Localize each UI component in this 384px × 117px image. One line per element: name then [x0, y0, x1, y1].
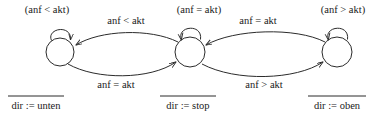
state-machine-diagram: (anf < akt) (anf = akt) (anf > akt) anf …: [0, 0, 384, 117]
transition-arc-center-to-left[interactable]: [76, 33, 178, 45]
transition-arc-right-to-center[interactable]: [206, 32, 325, 45]
transition-label-center-to-right: anf > akt: [245, 80, 282, 91]
state-guard-label-right: (anf > akt): [321, 5, 365, 16]
self-loop-left[interactable]: [51, 29, 71, 40]
state-output-label-center: dir := stop: [166, 101, 209, 112]
state-output-label-left: dir := unten: [11, 101, 60, 112]
state-guard-label-left: (anf < akt): [25, 5, 69, 16]
state-circle-left[interactable]: [46, 38, 74, 66]
transition-arc-left-to-center[interactable]: [68, 62, 176, 76]
state-output-label-right: dir := oben: [314, 101, 360, 112]
transition-label-right-to-center: anf = akt: [239, 16, 276, 27]
transition-label-center-to-left: anf < akt: [107, 16, 144, 27]
self-loop-center[interactable]: [181, 28, 201, 39]
state-circle-center[interactable]: [175, 37, 205, 67]
transition-label-left-to-center: anf = akt: [97, 80, 134, 91]
state-guard-label-center: (anf = akt): [177, 5, 221, 16]
state-circle-right[interactable]: [322, 37, 352, 67]
transition-arc-center-to-right[interactable]: [202, 62, 323, 77]
self-loop-right[interactable]: [328, 28, 348, 39]
